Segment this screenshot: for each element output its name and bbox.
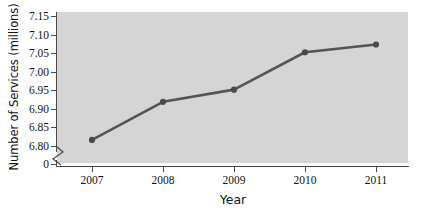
data-point	[302, 49, 308, 55]
data-point	[231, 87, 237, 93]
data-series-layer	[0, 0, 421, 216]
x-axis-title: Year	[57, 192, 409, 207]
data-point	[89, 137, 95, 143]
line-chart: 7.15 7.10 7.05 7.00 6.95 6.90 6.85 6.80 …	[0, 0, 421, 216]
y-axis-title: Number of Services (millions)	[6, 0, 22, 175]
data-point	[373, 41, 379, 47]
series-markers	[89, 41, 379, 143]
data-point	[160, 99, 166, 105]
